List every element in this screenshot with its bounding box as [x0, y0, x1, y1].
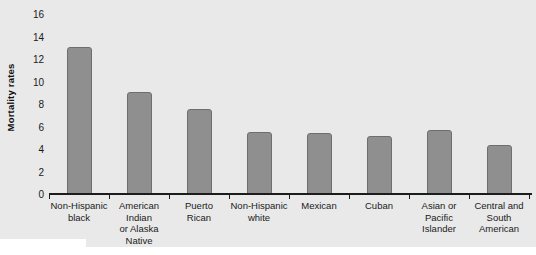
x-axis-category-label-line: Puerto	[169, 200, 229, 212]
x-axis-category-label-line: Mexican	[289, 200, 349, 212]
bar	[487, 145, 512, 195]
y-axis-tick-label: 2	[22, 166, 44, 177]
x-axis-category-label: Central andSouthAmerican	[469, 200, 529, 235]
y-axis-tick-label: 6	[22, 121, 44, 132]
x-axis-category-label-line: Central and	[469, 200, 529, 212]
x-axis-category-label: Cuban	[349, 200, 409, 212]
x-axis-category-label-line: Non-Hispanic	[49, 200, 109, 212]
x-axis-category-label-line: American	[469, 223, 529, 235]
bar	[247, 132, 272, 194]
y-axis-tick-label: 0	[22, 189, 44, 200]
x-axis-category-label-line: Pacific	[409, 212, 469, 224]
x-axis-category-label-line: white	[229, 212, 289, 224]
x-axis-tick-mark	[349, 195, 350, 199]
x-axis-category-label-line: Native	[109, 235, 169, 247]
x-axis-category-label-line: Rican	[169, 212, 229, 224]
x-axis-category-label-line: Indian	[109, 212, 169, 224]
x-axis-tick-mark	[49, 195, 50, 199]
y-axis-tick-label: 8	[22, 99, 44, 110]
x-axis-tick-mark	[109, 195, 110, 199]
bar	[187, 109, 212, 195]
x-axis-category-label: Asian orPacificIslander	[409, 200, 469, 235]
x-axis-category-label: Non-Hispanicblack	[49, 200, 109, 223]
bar	[307, 133, 332, 194]
bar	[367, 136, 392, 195]
x-axis-line	[49, 193, 532, 195]
x-axis-tick-mark	[289, 195, 290, 199]
x-axis-category-label-line: or Alaska	[109, 223, 169, 235]
x-axis-category-label-line: Islander	[409, 223, 469, 235]
x-axis-tick-mark	[469, 195, 470, 199]
y-axis-tick-label: 4	[22, 144, 44, 155]
x-axis-category-labels: Non-HispanicblackAmericanIndianor Alaska…	[49, 200, 532, 252]
x-axis-tick-mark	[229, 195, 230, 199]
y-axis-tick-labels: 0246810121416	[22, 0, 44, 247]
x-axis-category-label: Mexican	[289, 200, 349, 212]
y-axis-tick-label: 12	[22, 54, 44, 65]
x-axis-tick-mark	[529, 195, 530, 199]
bar	[67, 47, 92, 194]
y-axis-tick-label: 10	[22, 76, 44, 87]
x-axis-category-label-line: Asian or	[409, 200, 469, 212]
x-axis-category-label: Non-Hispanicwhite	[229, 200, 289, 223]
bar	[127, 92, 152, 194]
x-axis-category-label: PuertoRican	[169, 200, 229, 223]
x-axis-tick-mark	[169, 195, 170, 199]
plot-area	[49, 14, 529, 194]
x-axis-category-label-line: Cuban	[349, 200, 409, 212]
y-axis-tick-label: 14	[22, 31, 44, 42]
bar	[427, 130, 452, 194]
chart-screenshot: Mortality rates 0246810121416 Non-Hispan…	[0, 0, 536, 255]
x-axis-category-label-line: black	[49, 212, 109, 224]
x-axis-category-label-line: American	[109, 200, 169, 212]
x-axis-category-label: AmericanIndianor AlaskaNative	[109, 200, 169, 246]
x-axis-category-label-line: Non-Hispanic	[229, 200, 289, 212]
x-axis-category-label-line: South	[469, 212, 529, 224]
y-axis-tick-label: 16	[22, 9, 44, 20]
y-axis-title: Mortality rates	[5, 50, 16, 146]
x-axis-tick-mark	[409, 195, 410, 199]
